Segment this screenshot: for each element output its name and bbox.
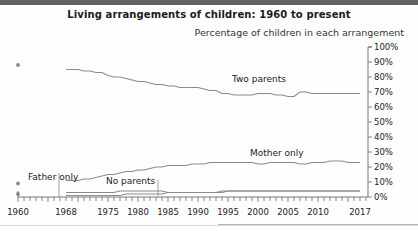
- y-axis-label-40: 40%: [374, 132, 393, 142]
- x-axis-label-1980: 1980: [127, 207, 149, 217]
- y-axis-label-60: 60%: [374, 102, 393, 112]
- start-marker-mother-only: [16, 182, 20, 186]
- y-axis-label-20: 20%: [374, 162, 393, 172]
- x-axis-label-2017: 2017: [349, 207, 371, 217]
- y-axis-label-90: 90%: [374, 57, 393, 67]
- series-annotation-mother-only: Mother only: [250, 148, 304, 158]
- chart-plot-area: [0, 0, 418, 231]
- y-axis-label-80: 80%: [374, 72, 393, 82]
- x-axis-label-1995: 1995: [217, 207, 239, 217]
- x-axis-label-1990: 1990: [187, 207, 209, 217]
- x-axis-label-2005: 2005: [277, 207, 299, 217]
- y-axis-label-0: 0%: [374, 192, 388, 202]
- start-markers: [16, 63, 20, 196]
- x-axis-label-1960: 1960: [7, 207, 29, 217]
- x-axis-label-2000: 2000: [247, 207, 269, 217]
- series-annotation-father-only: Father only: [28, 172, 78, 182]
- x-axis-label-1968: 1968: [55, 207, 77, 217]
- data-line-father-only: [66, 191, 360, 196]
- series-annotation-two-parents: Two parents: [232, 74, 286, 84]
- x-axis-label-2010: 2010: [307, 207, 329, 217]
- x-axis-label-1985: 1985: [157, 207, 179, 217]
- y-axis-label-30: 30%: [374, 147, 393, 157]
- bottom-divider: [0, 225, 418, 226]
- data-line-two-parents: [66, 70, 360, 97]
- y-axis-label-50: 50%: [374, 117, 393, 127]
- x-axis-label-1975: 1975: [97, 207, 119, 217]
- y-axis-label-100: 100%: [374, 42, 398, 52]
- y-axis-label-70: 70%: [374, 87, 393, 97]
- y-axis-label-10: 10%: [374, 177, 393, 187]
- chart-page: Living arrangements of children: 1960 to…: [0, 0, 418, 231]
- series-annotation-no-parents: No parents: [106, 176, 155, 186]
- bottom-divider-accent: [218, 224, 418, 225]
- start-marker-two-parents: [16, 63, 20, 67]
